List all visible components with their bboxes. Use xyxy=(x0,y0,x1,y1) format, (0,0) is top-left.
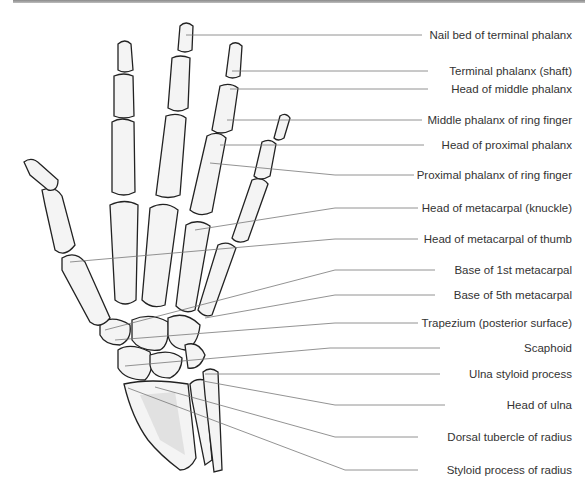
label-trapezium: Trapezium (posterior surface) xyxy=(422,316,572,330)
label-head-metacarpal-thumb: Head of metacarpal of thumb xyxy=(424,232,572,246)
label-dorsal-tubercle-radius: Dorsal tubercle of radius xyxy=(447,430,572,444)
label-head-proximal-phalanx: Head of proximal phalanx xyxy=(442,138,572,152)
label-base-5th-metacarpal: Base of 5th metacarpal xyxy=(454,288,572,302)
label-styloid-process-radius: Styloid process of radius xyxy=(447,463,572,477)
label-proximal-phalanx-ring: Proximal phalanx of ring finger xyxy=(417,168,572,182)
label-head-metacarpal-knuckle: Head of metacarpal (knuckle) xyxy=(422,201,572,215)
radius-bone xyxy=(124,381,196,470)
thumb-bones xyxy=(24,159,110,325)
label-head-ulna: Head of ulna xyxy=(507,398,572,412)
label-terminal-phalanx-shaft: Terminal phalanx (shaft) xyxy=(449,64,572,78)
label-nail-bed: Nail bed of terminal phalanx xyxy=(429,28,572,42)
label-base-1st-metacarpal: Base of 1st metacarpal xyxy=(454,263,572,277)
carpal-bones xyxy=(100,315,205,380)
label-head-middle-phalanx: Head of middle phalanx xyxy=(451,82,572,96)
label-middle-phalanx-ring: Middle phalanx of ring finger xyxy=(428,113,572,127)
index-finger-bones xyxy=(110,41,138,304)
label-scaphoid: Scaphoid xyxy=(524,341,572,355)
label-ulna-styloid: Ulna styloid process xyxy=(469,367,572,381)
